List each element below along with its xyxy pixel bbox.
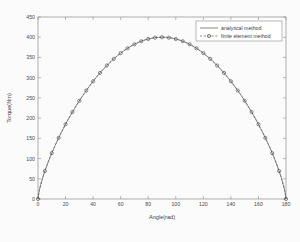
y-tick-label: 50 (29, 176, 35, 182)
series-analytical-method (38, 37, 286, 199)
y-axis-title: Torque(Nm) (6, 93, 12, 123)
y-tick-label: 250 (26, 95, 35, 101)
x-tick-label: 180 (282, 201, 291, 207)
x-tick-label: 140 (227, 201, 236, 207)
legend-label-analytical-method: analytical method (221, 25, 261, 31)
x-tick-label: 100 (171, 201, 180, 207)
y-tick-label: 450 (26, 14, 35, 20)
y-tick-label: 150 (26, 135, 35, 141)
chart-legend[interactable]: analytical method finite element method (196, 21, 282, 41)
x-tick-label: 60 (118, 201, 124, 207)
x-tick-label: 0 (37, 201, 40, 207)
x-tick-label: 160 (254, 201, 263, 207)
y-tick-label: 300 (26, 75, 35, 81)
y-tick-label: 200 (26, 115, 35, 121)
x-tick-label: 120 (199, 201, 208, 207)
y-tick-label: 0 (32, 196, 35, 202)
x-tick-label: 80 (145, 201, 151, 207)
x-axis-tick-labels: 020406080100120140160180 (37, 201, 291, 207)
figure-canvas: 020406080100120140160180 050100150200250… (0, 0, 300, 242)
y-tick-label: 100 (26, 156, 35, 162)
x-tick-label: 40 (90, 201, 96, 207)
series-finite-element-method-markers (36, 36, 287, 201)
x-axis-title: Angle(rad) (149, 214, 175, 220)
y-axis-tick-labels: 050100150200250300350400450 (26, 14, 35, 202)
y-tick-label: 400 (26, 34, 35, 40)
legend-label-finite-element-method: finite element method (221, 33, 271, 39)
series-finite-element-method-line (38, 37, 286, 199)
y-tick-label: 350 (26, 54, 35, 60)
chart-plot: 020406080100120140160180 050100150200250… (0, 0, 300, 242)
x-tick-label: 20 (63, 201, 69, 207)
